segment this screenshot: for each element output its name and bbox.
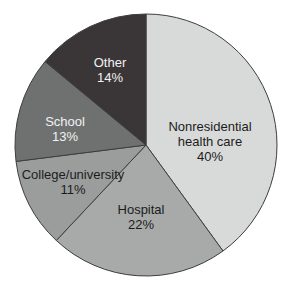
pie-chart: Nonresidentialhealth care40%Hospital22%C… — [0, 0, 290, 295]
pie-chart-figure: Nonresidentialhealth care40%Hospital22%C… — [0, 0, 290, 295]
slice-label-other: Other14% — [94, 55, 127, 85]
